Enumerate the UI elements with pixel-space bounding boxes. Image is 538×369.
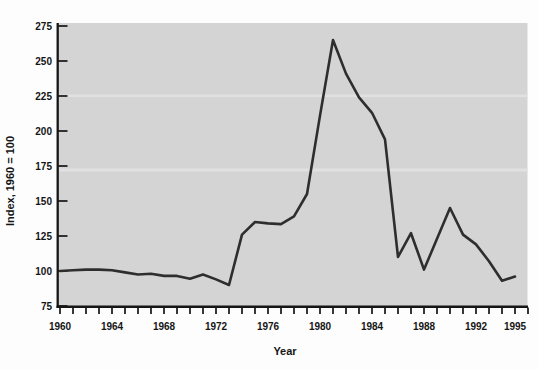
y-tick-label: 275 — [35, 21, 52, 32]
x-tick-label: 1972 — [205, 321, 228, 332]
x-tick-label: 1984 — [361, 321, 384, 332]
x-tick-label: 1988 — [413, 321, 436, 332]
oil-price-index-figure: 75100125150175200225250275 1960196419681… — [0, 0, 538, 369]
scan-streak — [59, 95, 528, 98]
plot-area — [59, 23, 528, 307]
x-tick-label: 1968 — [153, 321, 176, 332]
y-tick-label: 125 — [35, 231, 52, 242]
y-tick-label: 100 — [35, 266, 52, 277]
y-tick-label: 175 — [35, 161, 52, 172]
y-tick-label: 250 — [35, 56, 52, 67]
x-tick-label: 1976 — [257, 321, 280, 332]
y-tick-label: 200 — [35, 126, 52, 137]
x-axis-tick-labels: 1960196419681972197619801984198819921995 — [49, 321, 527, 332]
x-tick-label: 1980 — [309, 321, 332, 332]
y-axis-title: Index, 1960 = 100 — [4, 136, 16, 226]
scan-streak — [59, 169, 528, 172]
x-axis-ticks — [60, 308, 528, 315]
line-chart: 75100125150175200225250275 1960196419681… — [0, 0, 538, 369]
x-tick-label: 1995 — [504, 321, 527, 332]
y-tick-label: 150 — [35, 196, 52, 207]
x-tick-label: 1964 — [101, 321, 124, 332]
x-axis-title: Year — [273, 345, 297, 357]
y-tick-label: 75 — [41, 301, 53, 312]
x-tick-label: 1960 — [49, 321, 72, 332]
x-tick-label: 1992 — [465, 321, 488, 332]
y-axis-tick-labels: 75100125150175200225250275 — [35, 21, 52, 312]
y-tick-label: 225 — [35, 91, 52, 102]
